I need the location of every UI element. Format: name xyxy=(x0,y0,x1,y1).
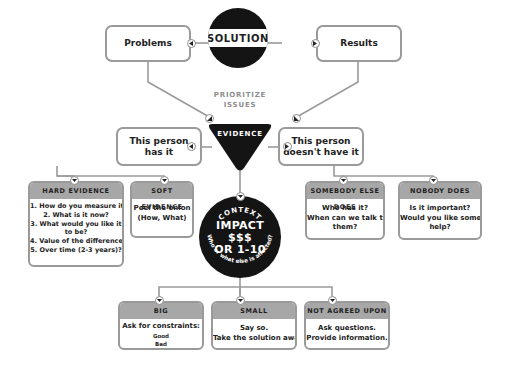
somebody-else-card: SOMEBODY ELSE DOES Who has it? When can … xyxy=(305,181,385,240)
nobody-does-line: help? xyxy=(400,223,480,233)
small-title: SMALL xyxy=(213,303,295,319)
not-agreed-line: Ask questions. xyxy=(306,324,388,334)
hard-evidence-card: HARD EVIDENCE 1. How do you measure it? … xyxy=(28,181,124,267)
arrow-right-icon xyxy=(283,142,292,151)
nobody-does-title: NOBODY DOES xyxy=(400,183,480,199)
connector-context-branches xyxy=(159,287,332,301)
big-card: BIG Ask for constraints: Good Bad xyxy=(118,301,204,350)
arrow-down-icon xyxy=(160,176,169,185)
solution-circle: SOLUTION xyxy=(208,8,268,68)
hard-evidence-line: 2. What is it now? xyxy=(30,211,122,220)
nobody-does-card: NOBODY DOES Is it important? Would you l… xyxy=(398,181,482,240)
arrow-right-icon xyxy=(311,39,320,48)
small-card: SMALL Say so. Take the solution away. xyxy=(211,301,297,350)
small-line: Take the solution away. xyxy=(213,334,295,344)
problems-box: Problems xyxy=(105,25,191,62)
somebody-else-line: When can we talk to xyxy=(307,214,383,224)
big-sub-line: Good xyxy=(120,332,202,340)
not-agreed-card: NOT AGREED UPON Ask questions. Provide i… xyxy=(304,301,390,350)
big-title: BIG xyxy=(120,303,202,319)
has-it-line-2: has it xyxy=(145,147,173,158)
not-agreed-line: Provide information. xyxy=(306,334,388,344)
results-label: Results xyxy=(340,38,378,49)
arrow-down-icon xyxy=(328,296,337,305)
impact-line-3: OR 1-10 xyxy=(199,244,281,256)
arrow-left-icon xyxy=(187,39,196,48)
arrow-down-icon xyxy=(236,296,245,305)
arrow-down-icon xyxy=(339,176,348,185)
big-sub-line: Bad xyxy=(120,340,202,348)
somebody-else-line: them? xyxy=(307,223,383,233)
arrow-down-icon xyxy=(236,192,245,201)
somebody-else-title: SOMEBODY ELSE DOES xyxy=(307,183,383,199)
not-agreed-title: NOT AGREED UPON xyxy=(306,303,388,319)
big-line: Ask for constraints: xyxy=(120,322,202,332)
small-line: Say so. xyxy=(213,324,295,334)
doesnt-have-it-line-1: This person xyxy=(291,136,350,147)
doesnt-have-it-line-2: doesn't have it xyxy=(283,147,359,158)
impact-label: IMPACT $$$ OR 1-10 xyxy=(199,220,281,256)
hard-evidence-line: 5. Over time (2-3 years)? xyxy=(30,246,122,255)
somebody-else-line: Who has it? xyxy=(307,204,383,214)
evidence-label: EVIDENCE xyxy=(215,130,265,138)
soft-evidence-title: SOFT EVIDENCE xyxy=(132,183,192,199)
arrow-down-icon xyxy=(70,176,79,185)
nobody-does-line: Is it important? xyxy=(400,204,480,214)
hard-evidence-line: 3. What would you like it xyxy=(30,220,122,229)
prioritize-issues-label: PRIORITIZE ISSUES xyxy=(200,90,280,110)
arrow-down-icon xyxy=(155,296,164,305)
problems-label: Problems xyxy=(124,38,172,49)
has-it-line-1: This person xyxy=(129,136,188,147)
hard-evidence-line: to be? xyxy=(30,228,122,237)
hard-evidence-line: 1. How do you measure it? xyxy=(30,202,122,211)
diagram-canvas: SOLUTION Problems Results PRIORITIZE ISS… xyxy=(0,0,506,371)
prioritize-line-1: PRIORITIZE xyxy=(200,90,280,100)
soft-evidence-card: SOFT EVIDENCE Peel the onion (How, What) xyxy=(130,181,194,238)
arrow-left-icon xyxy=(187,142,196,151)
solution-label: SOLUTION xyxy=(208,29,268,47)
arrow-diagonal-icon xyxy=(292,114,301,123)
results-box: Results xyxy=(316,25,402,62)
arrow-down-icon xyxy=(429,176,438,185)
soft-evidence-line: Peel the onion xyxy=(132,204,192,214)
hard-evidence-title: HARD EVIDENCE xyxy=(30,183,122,199)
prioritize-line-2: ISSUES xyxy=(200,100,280,110)
soft-evidence-line: (How, What) xyxy=(132,214,192,224)
connector-results-evidence xyxy=(295,62,358,118)
hard-evidence-line: 4. Value of the difference? xyxy=(30,237,122,246)
nobody-does-line: Would you like some xyxy=(400,214,480,224)
